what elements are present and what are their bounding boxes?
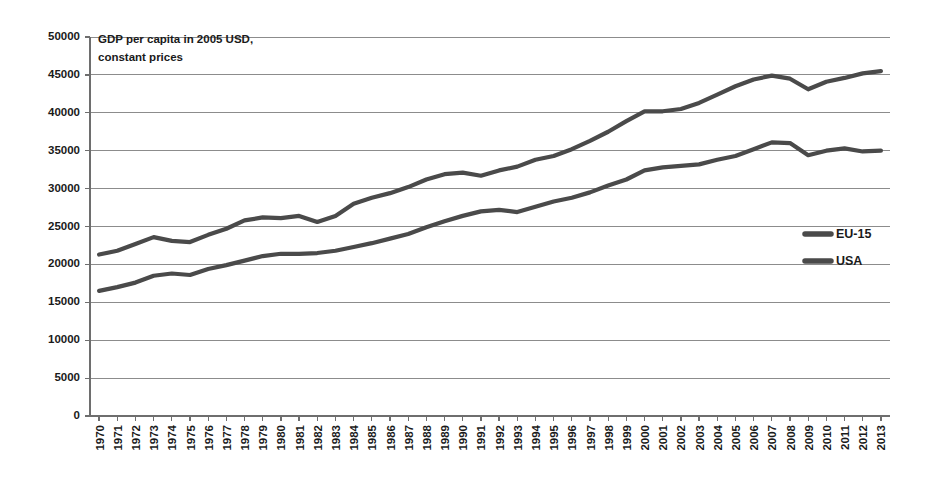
x-axis-label: 1993: [512, 425, 524, 451]
x-axis-label: 2001: [657, 424, 669, 450]
x-axis-label: 2007: [766, 425, 778, 451]
legend-group: EU-15USA: [805, 227, 871, 268]
y-axis-group: 0500010000150002000025000300003500040000…: [48, 30, 90, 421]
y-axis-label: 35000: [48, 144, 80, 156]
y-axis-label: 45000: [48, 68, 80, 80]
x-axis-label: 1984: [348, 424, 360, 450]
legend-label-eu-15: EU-15: [836, 227, 871, 241]
x-axis-label: 2006: [748, 425, 760, 451]
x-axis-label: 1997: [585, 425, 597, 451]
legend-label-usa: USA: [836, 254, 862, 268]
x-axis-label: 2000: [639, 425, 651, 451]
annotation-line-2: constant prices: [98, 51, 183, 63]
x-axis-label: 2010: [821, 425, 833, 451]
x-axis-label: 2013: [875, 425, 887, 451]
x-axis-label: 1988: [421, 424, 433, 450]
x-axis-label: 1994: [530, 424, 542, 450]
chart-container: 0500010000150002000025000300003500040000…: [0, 0, 929, 483]
x-axis-label: 1999: [621, 425, 633, 451]
x-axis-label: 2005: [730, 424, 742, 450]
y-axis-label: 10000: [48, 333, 80, 345]
x-axis-label: 1991: [475, 424, 487, 450]
annotation-line-1: GDP per capita in 2005 USD,: [98, 33, 253, 45]
y-axis-label: 0: [74, 409, 80, 421]
x-axis-label: 1971: [112, 424, 124, 450]
x-axis-group: 1970197119721973197419751976197719781979…: [90, 416, 890, 451]
x-axis-label: 1979: [257, 425, 269, 451]
y-axis-label: 40000: [48, 106, 80, 118]
x-axis-label: 1990: [457, 425, 469, 451]
y-axis-label: 5000: [54, 371, 80, 383]
x-axis-label: 2012: [857, 425, 869, 451]
x-axis-label: 1975: [185, 424, 197, 450]
annotation-group: GDP per capita in 2005 USD, constant pri…: [98, 33, 253, 63]
x-axis-label: 1986: [385, 425, 397, 451]
x-axis-label: 1987: [403, 425, 415, 451]
x-axis-label: 2008: [785, 424, 797, 450]
x-axis-label: 1977: [221, 425, 233, 451]
x-axis-label: 2003: [694, 425, 706, 451]
x-axis-label: 1992: [494, 425, 506, 451]
x-axis-label: 1978: [239, 424, 251, 450]
x-axis-label: 1983: [330, 425, 342, 451]
x-axis-label: 1976: [203, 425, 215, 451]
x-axis-label: 1970: [94, 425, 106, 451]
y-axis-label: 30000: [48, 182, 80, 194]
y-axis-label: 50000: [48, 30, 80, 42]
x-axis-label: 1981: [294, 424, 306, 450]
x-axis-label: 2011: [839, 424, 851, 450]
y-axis-label: 20000: [48, 257, 80, 269]
gdp-per-capita-line-chart: 0500010000150002000025000300003500040000…: [0, 0, 929, 483]
x-axis-label: 2009: [803, 425, 815, 451]
series-line-eu-15: [99, 142, 881, 291]
x-axis-label: 1996: [566, 425, 578, 451]
x-axis-label: 1973: [148, 425, 160, 451]
x-axis-label: 1995: [548, 424, 560, 450]
y-axis-label: 15000: [48, 295, 80, 307]
x-axis-label: 1980: [275, 425, 287, 451]
y-axis-label: 25000: [48, 220, 80, 232]
x-axis-label: 1989: [439, 425, 451, 451]
gridlines-group: [90, 37, 890, 416]
series-line-usa: [99, 71, 881, 254]
x-axis-label: 1974: [166, 424, 178, 450]
x-axis-label: 1985: [366, 424, 378, 450]
x-axis-label: 2002: [675, 425, 687, 451]
plot-lines-group: [99, 71, 881, 291]
x-axis-label: 2004: [712, 424, 724, 450]
x-axis-label: 1998: [603, 424, 615, 450]
x-axis-label: 1982: [312, 425, 324, 451]
x-axis-label: 1972: [130, 425, 142, 451]
